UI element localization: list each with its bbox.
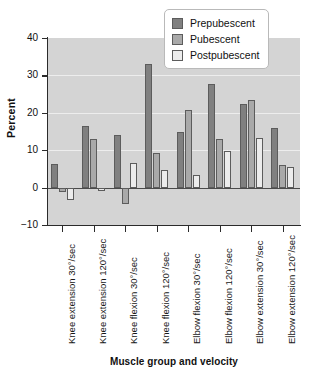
legend-item-pubescent: Pubescent [172, 31, 259, 47]
y-tick-label: 20 [0, 108, 38, 118]
legend-item-prepubescent: Prepubescent [172, 15, 259, 31]
bar [177, 132, 184, 188]
y-tick-mark [42, 113, 48, 114]
legend-label-postpubescent: Postpubescent [190, 50, 259, 61]
bar [185, 110, 192, 187]
bar [216, 139, 223, 188]
y-tick-mark [42, 38, 48, 39]
bar [122, 188, 129, 204]
x-tick-mark [220, 226, 221, 232]
x-category-label: Knee flexion 120°/sec [161, 252, 171, 344]
bar [145, 64, 152, 188]
y-tick-mark [42, 150, 48, 151]
x-tick-mark [283, 226, 284, 232]
legend-item-postpubescent: Postpubescent [172, 47, 259, 63]
x-category-label: Knee flexion 30°/sec [129, 257, 139, 344]
legend-swatch-icon-prepubescent [172, 18, 183, 29]
y-tick-mark [42, 75, 48, 76]
bar [256, 138, 263, 188]
x-tick-mark [157, 226, 158, 232]
x-axis-title: Muscle group and velocity [48, 356, 300, 367]
bar-chart-figure: Percent −10010203040 Knee extension 30°/… [0, 0, 314, 378]
x-category-label: Elbow flexion 30°/sec [192, 254, 202, 344]
x-tick-mark [125, 226, 126, 232]
x-tick-mark [188, 226, 189, 232]
y-tick-label: 30 [0, 70, 38, 80]
x-category-label: Knee extension 30°/sec [67, 244, 77, 344]
bar [82, 126, 89, 188]
bar [51, 164, 58, 187]
bar [130, 163, 137, 187]
bar [271, 128, 278, 187]
bar [279, 165, 286, 188]
x-category-label: Elbow extension 30°/sec [255, 240, 265, 344]
bar [248, 100, 255, 187]
bar [208, 84, 215, 188]
bar [224, 151, 231, 188]
bar [161, 170, 168, 188]
bar [240, 104, 247, 188]
x-axis-spine [47, 225, 301, 226]
bar [153, 153, 160, 188]
bar [67, 188, 74, 200]
y-tick-mark [42, 188, 48, 189]
bar [287, 167, 294, 188]
y-tick-label: 10 [0, 145, 38, 155]
legend-swatch-icon-postpubescent [172, 50, 183, 61]
bar [59, 188, 66, 192]
y-tick-label: 40 [0, 33, 38, 43]
x-tick-mark [251, 226, 252, 232]
x-category-label: Elbow extension 120°/sec [287, 235, 297, 344]
x-tick-mark [62, 226, 63, 232]
legend-label-prepubescent: Prepubescent [190, 18, 255, 29]
legend: Prepubescent Pubescent Postpubescent [164, 9, 269, 69]
x-tick-mark [94, 226, 95, 232]
gridline [48, 75, 300, 76]
y-axis-title: Percent [5, 83, 17, 153]
legend-label-pubescent: Pubescent [190, 34, 240, 45]
y-tick-label: −10 [0, 220, 38, 230]
zero-baseline [48, 188, 300, 189]
bar [98, 188, 105, 191]
bar [114, 135, 121, 187]
x-category-label: Knee extension 120°/sec [98, 239, 108, 344]
gridline [48, 113, 300, 114]
legend-swatch-icon-pubescent [172, 34, 183, 45]
y-tick-mark [42, 225, 48, 226]
bar [90, 139, 97, 188]
y-axis-spine [47, 37, 48, 226]
x-category-label: Elbow flexion 120°/sec [224, 248, 234, 344]
bar [193, 175, 200, 187]
y-tick-label: 0 [0, 183, 38, 193]
